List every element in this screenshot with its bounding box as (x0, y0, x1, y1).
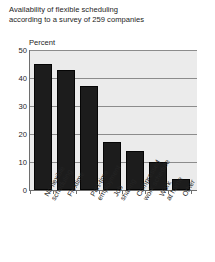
chart-title-line-1: Availability of flexible scheduling (9, 5, 209, 15)
y-axis-tick-label: 0 (23, 186, 27, 195)
bar-slot (125, 50, 145, 190)
chart-title-line-2: according to a survey of 259 companies (9, 15, 209, 25)
x-axis-labels: No flexibleschedulingFlextimePart-timeem… (29, 194, 215, 262)
bar-slot (33, 50, 53, 190)
chart-figure: Availability of flexible scheduling acco… (0, 0, 215, 262)
bar (34, 64, 52, 190)
y-axis-tick-label: 40 (19, 74, 27, 83)
bar-slot (171, 50, 191, 190)
y-axis-tick-label: 20 (19, 130, 27, 139)
y-axis-caption: Percent (29, 38, 55, 47)
y-axis-tick-label: 50 (19, 46, 27, 55)
chart-title: Availability of flexible scheduling acco… (9, 5, 209, 24)
bar-slot (79, 50, 99, 190)
y-axis-tick-label: 30 (19, 102, 27, 111)
y-axis-tick-label: 10 (19, 158, 27, 167)
